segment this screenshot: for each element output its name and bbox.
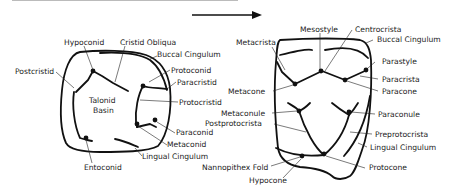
label-lingual-cingulum-upper: Lingual Cingulum <box>370 144 436 152</box>
label-metaconule: Metaconule <box>221 110 265 118</box>
upper-molar-cusps <box>293 68 369 159</box>
label-talonid: Talonid <box>89 97 116 105</box>
hypocone-cusp <box>300 154 305 159</box>
paracone-cusp <box>343 78 348 83</box>
label-hypocone: Hypocone <box>249 177 287 185</box>
upper-molar-drawing <box>275 39 371 180</box>
label-postprotocrista: Postprotocrista <box>205 120 262 128</box>
protoconid-cusp <box>141 84 146 89</box>
paraconid-cusp <box>153 118 158 123</box>
label-lingual-cingulum-lower: Lingual Cingulum <box>142 153 208 161</box>
metaconule-cusp <box>297 109 302 114</box>
parastyle-cusp <box>364 68 369 73</box>
label-buccal-cingulum-lower: Buccal Cingulum <box>157 51 221 59</box>
label-centrocrista: Centrocrista <box>355 26 401 34</box>
right-arrow-icon <box>192 11 262 19</box>
label-paracone: Paracone <box>382 88 417 96</box>
label-paraconid: Paraconid <box>176 129 213 137</box>
mesostyle-cusp <box>319 69 324 74</box>
label-protocristid: Protocristid <box>179 99 222 107</box>
label-hypoconid: Hypoconid <box>64 39 104 47</box>
label-metaconid: Metaconid <box>167 141 206 149</box>
label-metacone: Metacone <box>228 88 265 96</box>
label-cristid-obliqua: Cristid Obliqua <box>120 39 176 47</box>
dental-cusp-diagram: Hypoconid Cristid Obliqua Buccal Cingulu… <box>0 0 460 194</box>
protocone-cusp <box>322 152 327 157</box>
label-paraconule: Paraconule <box>378 111 420 119</box>
metacone-cusp <box>293 82 298 87</box>
label-entoconid: Entoconid <box>84 164 122 172</box>
paraconule-cusp <box>347 110 352 115</box>
label-buccal-cingulum-upper: Buccal Cingulum <box>377 36 441 44</box>
label-paracristid: Paracristid <box>177 79 217 87</box>
label-paracrista: Paracrista <box>382 76 420 84</box>
label-parastyle: Parastyle <box>382 58 417 66</box>
label-basin: Basin <box>93 107 114 115</box>
label-mesostyle: Mesostyle <box>300 26 338 34</box>
label-postcristid: Postcristid <box>15 68 54 76</box>
label-protoconid: Protoconid <box>171 67 211 75</box>
metaconid-cusp <box>135 122 140 127</box>
label-protocone: Protocone <box>369 164 407 172</box>
entoconid-cusp <box>84 136 89 141</box>
label-nannopithex-fold: Nannopithex Fold <box>202 164 268 172</box>
label-preprotocrista: Preprotocrista <box>375 131 428 139</box>
label-metacrista: Metacrista <box>236 39 276 47</box>
